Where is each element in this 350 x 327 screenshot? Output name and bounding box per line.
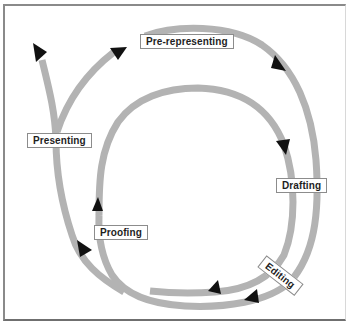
presenting-strand — [42, 60, 124, 292]
pre-representing-branch — [57, 52, 114, 132]
label-presenting: Presenting — [27, 133, 92, 148]
spiral-diagram — [0, 0, 350, 327]
label-proofing: Proofing — [94, 225, 148, 240]
label-pre-representing: Pre-representing — [140, 34, 234, 49]
arrowhead-presenting-icon — [33, 43, 47, 62]
label-drafting: Drafting — [276, 178, 327, 193]
